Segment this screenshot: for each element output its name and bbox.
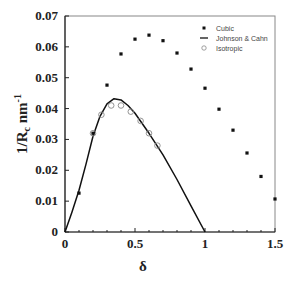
data-point [259, 175, 262, 178]
series-cubic [77, 34, 276, 201]
data-series [65, 34, 277, 232]
y-tick-label: 0.01 [35, 193, 58, 208]
data-point [217, 108, 220, 111]
legend-label: Johnson & Cahn [216, 35, 268, 42]
plot-frame [65, 16, 275, 232]
y-tick-label: 0.02 [35, 162, 58, 177]
x-axis-title: δ [139, 258, 147, 274]
y-tick-label: 0.05 [35, 70, 58, 85]
data-point [161, 39, 164, 42]
data-point [273, 197, 276, 200]
y-tick-label: 0 [52, 224, 59, 239]
y-tick-label: 0.07 [35, 8, 58, 23]
series-isotropic [90, 103, 160, 149]
data-point [133, 38, 136, 41]
x-tick-label: 1.5 [267, 236, 284, 251]
data-point [189, 67, 192, 70]
y-axis-title: 1/Rc nm-1 [12, 94, 32, 154]
chart: 00.010.020.030.040.050.060.0700.511.5 Cu… [0, 0, 296, 284]
series-johnson-cahn [65, 99, 205, 232]
x-tick-label: 0 [62, 236, 69, 251]
y-tick-label: 0.06 [35, 39, 58, 54]
legend-label: Isotropic [216, 45, 243, 53]
y-tick-label: 0.03 [35, 131, 58, 146]
x-tick-label: 0.5 [127, 236, 144, 251]
data-point [108, 103, 114, 109]
legend-label: Cubic [216, 25, 234, 32]
data-point [203, 87, 206, 90]
axis-ticks: 00.010.020.030.040.050.060.0700.511.5 [35, 8, 283, 251]
data-point [119, 52, 122, 55]
data-point [118, 103, 124, 109]
x-tick-label: 1 [202, 236, 209, 251]
data-point [105, 84, 108, 87]
data-point [231, 129, 234, 132]
data-point [175, 51, 178, 54]
y-tick-label: 0.04 [35, 101, 58, 116]
legend: CubicJohnson & CahnIsotropic [200, 25, 268, 53]
data-point [245, 151, 248, 154]
data-point [147, 34, 150, 37]
